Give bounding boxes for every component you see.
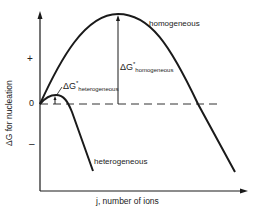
heterogeneous-barrier-arrow-icon [54, 96, 57, 100]
y-tick-plus: + [27, 54, 33, 64]
dg-homogeneous-sub: homogeneous [135, 67, 173, 73]
y-axis-arrow-icon [38, 11, 43, 19]
homogeneous-barrier-arrow-icon [116, 15, 120, 21]
dg-heterogeneous-main: ΔG [63, 81, 76, 91]
y-tick-zero: 0 [29, 99, 34, 108]
heterogeneous-curve-label: heterogeneous [94, 158, 147, 166]
dg-heterogeneous-sub: heterogeneous [78, 86, 118, 92]
dg-homogeneous-annotation: ΔG*homogeneous [120, 61, 173, 73]
diagram-canvas [0, 0, 257, 213]
x-axis-arrow-icon [240, 189, 248, 194]
homogeneous-curve-label: homogeneous [149, 20, 200, 28]
x-axis-label: j, number of ions [96, 197, 159, 206]
heterogeneous-curve [40, 95, 93, 171]
y-tick-minus: – [29, 139, 35, 149]
homogeneous-curve [40, 14, 235, 172]
dg-homogeneous-main: ΔG [120, 62, 133, 72]
y-axis-label: ΔG for nucleation [4, 80, 14, 146]
dg-heterogeneous-annotation: ΔG*heterogeneous [63, 80, 118, 92]
